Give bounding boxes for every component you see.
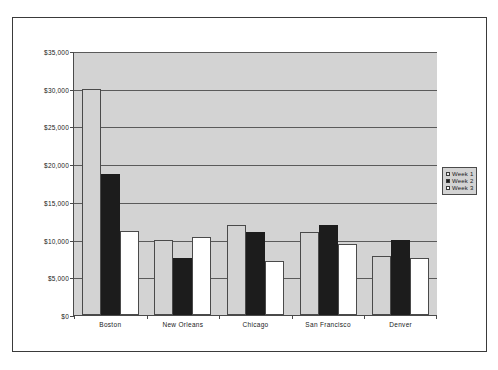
x-axis-label-boston: Boston bbox=[99, 321, 121, 328]
x-axis-tick bbox=[292, 315, 293, 319]
bar-san-francisco-week-3[interactable] bbox=[338, 244, 357, 315]
legend-item-week-2[interactable]: Week 2 bbox=[446, 178, 473, 184]
y-axis-label: $20,000 bbox=[44, 162, 69, 169]
bar-denver-week-2[interactable] bbox=[391, 240, 410, 315]
chart-frame: $35,000$30,000$25,000$20,000$15,000$10,0… bbox=[12, 17, 487, 352]
x-axis-tick bbox=[364, 315, 365, 319]
bar-boston-week-2[interactable] bbox=[101, 174, 120, 315]
bar-new-orleans-week-3[interactable] bbox=[192, 237, 211, 315]
bar-group-san-francisco: San Francisco bbox=[292, 52, 365, 315]
chart-legend: Week 1Week 2Week 3 bbox=[442, 167, 477, 195]
x-axis-tick bbox=[219, 315, 220, 319]
y-axis-label: $35,000 bbox=[44, 49, 69, 56]
x-axis-label-new-orleans: New Orleans bbox=[162, 321, 203, 328]
y-axis-label: $30,000 bbox=[44, 86, 69, 93]
y-axis-label: $10,000 bbox=[44, 237, 69, 244]
bar-chicago-week-2[interactable] bbox=[246, 232, 265, 315]
bar-boston-week-1[interactable] bbox=[82, 89, 101, 315]
legend-item-week-1[interactable]: Week 1 bbox=[446, 171, 473, 177]
bar-group-chicago: Chicago bbox=[219, 52, 292, 315]
legend-label: Week 2 bbox=[452, 178, 473, 184]
plot-area: $35,000$30,000$25,000$20,000$15,000$10,0… bbox=[73, 52, 437, 316]
bar-denver-week-1[interactable] bbox=[372, 256, 391, 315]
y-axis-label: $5,000 bbox=[48, 275, 69, 282]
bar-san-francisco-week-2[interactable] bbox=[319, 225, 338, 316]
bar-chicago-week-1[interactable] bbox=[227, 225, 246, 316]
bar-new-orleans-week-2[interactable] bbox=[173, 258, 192, 315]
y-axis-label: $25,000 bbox=[44, 124, 69, 131]
legend-label: Week 3 bbox=[452, 185, 473, 191]
x-axis-label-denver: Denver bbox=[389, 321, 412, 328]
y-axis-label: $0 bbox=[61, 313, 69, 320]
x-axis-tick bbox=[74, 315, 75, 319]
bar-group-new-orleans: New Orleans bbox=[147, 52, 220, 315]
legend-label: Week 1 bbox=[452, 171, 473, 177]
bar-group-boston: Boston bbox=[74, 52, 147, 315]
x-axis-label-chicago: Chicago bbox=[243, 321, 269, 328]
y-axis-label: $15,000 bbox=[44, 199, 69, 206]
bar-san-francisco-week-1[interactable] bbox=[300, 232, 319, 315]
bars-layer: BostonNew OrleansChicagoSan FranciscoDen… bbox=[74, 52, 437, 315]
bar-chicago-week-3[interactable] bbox=[265, 261, 284, 315]
bar-new-orleans-week-1[interactable] bbox=[154, 240, 173, 315]
x-axis-tick bbox=[147, 315, 148, 319]
bar-denver-week-3[interactable] bbox=[410, 258, 429, 315]
x-axis-tick bbox=[436, 315, 437, 319]
bar-boston-week-3[interactable] bbox=[120, 231, 139, 315]
bar-group-denver: Denver bbox=[364, 52, 437, 315]
x-axis-label-san-francisco: San Francisco bbox=[305, 321, 350, 328]
legend-swatch-icon bbox=[446, 172, 450, 176]
legend-swatch-icon bbox=[446, 179, 450, 183]
legend-item-week-3[interactable]: Week 3 bbox=[446, 185, 473, 191]
legend-swatch-icon bbox=[446, 186, 450, 190]
